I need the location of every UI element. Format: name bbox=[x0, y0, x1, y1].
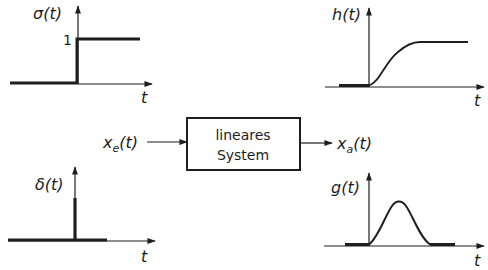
level-marker: 1 bbox=[63, 32, 72, 48]
step-signal bbox=[10, 39, 140, 83]
plot-step-response: h(t) t bbox=[325, 5, 484, 110]
impulse-response-curve bbox=[369, 202, 430, 245]
axis-label: t bbox=[474, 251, 481, 270]
system-block-group: xe(t) lineares System xa(t) bbox=[102, 118, 372, 170]
axis-label: t bbox=[141, 88, 148, 107]
plot-label: h(t) bbox=[332, 5, 361, 24]
plot-impulse-response: g(t) t bbox=[324, 173, 484, 270]
axis-label: t bbox=[474, 91, 481, 110]
axis-label: t bbox=[141, 247, 148, 266]
output-label: xa(t) bbox=[336, 134, 372, 156]
plot-label: σ(t) bbox=[33, 4, 62, 23]
plot-label: δ(t) bbox=[35, 175, 64, 194]
input-label: xe(t) bbox=[102, 133, 138, 155]
plot-label: g(t) bbox=[331, 178, 360, 197]
system-block-line2: System bbox=[217, 147, 269, 163]
plot-step-input: σ(t) 1 t bbox=[10, 4, 152, 107]
plot-impulse-input: δ(t) t bbox=[8, 167, 155, 266]
system-diagram: σ(t) 1 t h(t) t xe(t) lineares System xa… bbox=[0, 0, 488, 270]
system-block-line1: lineares bbox=[215, 127, 270, 143]
